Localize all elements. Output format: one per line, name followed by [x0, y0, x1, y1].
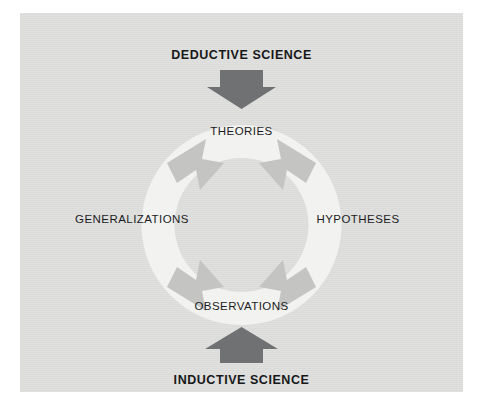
deductive-science-header: DEDUCTIVE SCIENCE: [20, 48, 463, 62]
stage-label-observations: OBSERVATIONS: [20, 300, 463, 312]
scientific-method-cycle-diagram: DEDUCTIVE SCIENCE INDUCTIVE SCIENCE: [0, 0, 495, 416]
inductive-up-arrow-icon: [205, 327, 278, 363]
deductive-down-arrow-icon: [207, 70, 276, 109]
inductive-science-header: INDUCTIVE SCIENCE: [20, 373, 463, 387]
cycle-graphic: [20, 13, 463, 392]
diagram-panel: DEDUCTIVE SCIENCE INDUCTIVE SCIENCE: [20, 13, 463, 392]
stage-label-theories: THEORIES: [20, 125, 463, 137]
cycle-ring: [142, 125, 342, 325]
stage-label-hypotheses: HYPOTHESES: [268, 213, 448, 225]
stage-label-generalizations: GENERALIZATIONS: [42, 213, 222, 225]
